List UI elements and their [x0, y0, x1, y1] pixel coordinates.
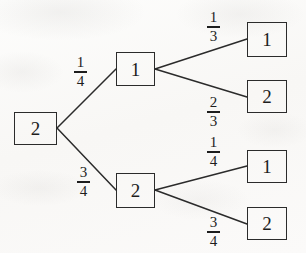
tree-leaf-2: 2 [247, 80, 287, 113]
tree-leaf-4: 2 [247, 207, 287, 240]
tree-node-level1-1-label: 1 [131, 60, 141, 79]
probability-tree-figure: 2 1 2 1 2 1 2 1 4 3 4 1 3 2 3 1 [0, 0, 306, 253]
edge-label-node1-to-leaf1: 1 3 [207, 10, 220, 44]
fraction-denominator: 4 [75, 74, 87, 89]
fraction-numerator: 1 [75, 55, 87, 70]
tree-leaf-2-label: 2 [262, 87, 272, 106]
fraction-numerator: 1 [208, 135, 220, 150]
edge-node2-to-leaf3 [155, 166, 247, 190]
edge-node1-to-leaf2 [155, 69, 247, 97]
fraction-denominator: 4 [208, 234, 220, 249]
tree-node-level1-2: 2 [116, 173, 155, 208]
tree-leaf-1-label: 1 [262, 30, 272, 49]
tree-leaf-3: 1 [247, 150, 287, 183]
edge-node1-to-leaf1 [155, 39, 247, 69]
tree-node-level1-2-label: 2 [131, 181, 141, 200]
fraction-denominator: 4 [208, 154, 220, 169]
fraction-denominator: 3 [208, 29, 220, 44]
fraction-denominator: 3 [208, 114, 220, 129]
edge-label-node2-to-leaf4: 3 4 [207, 215, 220, 249]
edge-label-node1-to-leaf2: 2 3 [207, 95, 220, 129]
edge-node2-to-leaf4 [155, 190, 247, 224]
fraction-denominator: 4 [78, 184, 90, 199]
fraction-numerator: 1 [208, 10, 220, 25]
tree-node-root: 2 [14, 112, 57, 145]
fraction-numerator: 3 [78, 165, 90, 180]
tree-leaf-3-label: 1 [262, 157, 272, 176]
edge-label-root-to-node2: 3 4 [77, 165, 90, 199]
edge-label-node2-to-leaf3: 1 4 [207, 135, 220, 169]
tree-leaf-1: 1 [247, 22, 287, 57]
tree-node-level1-1: 1 [116, 52, 155, 86]
tree-node-root-label: 2 [31, 119, 41, 138]
fraction-numerator: 2 [208, 95, 220, 110]
edge-label-root-to-node1: 1 4 [74, 55, 87, 89]
fraction-numerator: 3 [208, 215, 220, 230]
tree-leaf-4-label: 2 [262, 214, 272, 233]
